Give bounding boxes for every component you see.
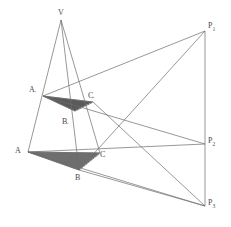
vertex-label-text: C [100, 150, 105, 159]
geometry-diagram: VA'B'C'ABCP1P2P3 [0, 0, 231, 227]
vertex-label-subscript: ' [93, 96, 94, 102]
vertex-label-b: B [75, 174, 80, 182]
vertex-label-cp: C' [88, 92, 94, 102]
vertex-label-subscript: 3 [212, 203, 215, 209]
diagram-canvas [0, 0, 231, 227]
vertex-label-p3: P3 [208, 199, 215, 209]
edge-V-B [61, 20, 79, 170]
vertex-label-p2: P2 [208, 137, 215, 147]
vertex-label-c: C [100, 151, 105, 159]
lower-shaded-triangle [28, 152, 100, 170]
vertex-label-subscript: ' [35, 90, 36, 96]
ray-P2-A [28, 144, 205, 152]
vertex-label-ap: A' [29, 86, 36, 96]
ray-P3-A [28, 152, 205, 206]
vertex-label-text: A [15, 146, 21, 155]
edges-group [28, 20, 205, 206]
vertex-label-a: A [15, 147, 21, 155]
vertex-label-subscript: ' [67, 122, 68, 128]
vertex-label-v: V [58, 9, 64, 17]
ray-P3-Cp [93, 102, 205, 206]
vertex-label-text: V [58, 8, 64, 17]
vertex-label-text: B [75, 173, 80, 182]
vertex-label-p1: P1 [208, 22, 215, 32]
vertex-label-bp: B' [62, 118, 68, 128]
vertex-label-subscript: 1 [212, 26, 215, 32]
vertex-label-subscript: 2 [212, 141, 215, 147]
